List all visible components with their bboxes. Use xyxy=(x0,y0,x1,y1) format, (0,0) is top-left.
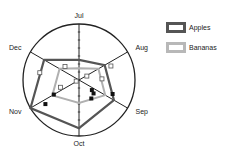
axis-label-aug: Aug xyxy=(135,44,148,52)
axis-label-nov: Nov xyxy=(9,108,22,115)
legend-label: Bananas xyxy=(189,44,217,51)
axis-label-jul: Jul xyxy=(75,12,84,19)
legend-label: Apples xyxy=(189,24,210,31)
open-marker xyxy=(85,74,89,78)
open-marker xyxy=(63,65,67,69)
bananas-swatch xyxy=(166,42,186,53)
series-apples xyxy=(31,60,114,128)
axis-line xyxy=(31,52,79,80)
axis-label-dec: Dec xyxy=(9,44,22,51)
axis-label-sep: Sep xyxy=(135,108,148,116)
legend-item-apples: Apples xyxy=(166,19,217,35)
axis-label-oct: Oct xyxy=(74,140,85,147)
apples-swatch xyxy=(166,22,186,33)
open-marker xyxy=(74,79,78,83)
open-marker xyxy=(38,71,42,75)
legend: Apples Bananas xyxy=(166,19,217,59)
filled-marker xyxy=(43,102,47,106)
open-marker xyxy=(100,77,104,81)
filled-marker xyxy=(92,91,96,95)
series-layer xyxy=(31,60,114,128)
axes-layer xyxy=(23,24,135,136)
legend-item-bananas: Bananas xyxy=(166,39,217,55)
open-marker xyxy=(109,64,113,68)
open-marker xyxy=(59,85,63,89)
filled-marker xyxy=(52,93,56,97)
filled-marker xyxy=(89,96,93,100)
filled-marker xyxy=(111,92,115,96)
